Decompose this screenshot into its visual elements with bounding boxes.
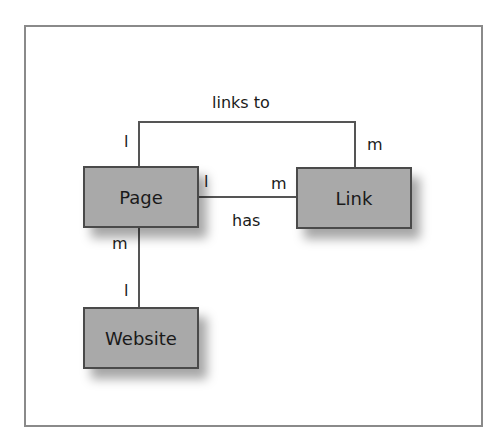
cardinality-page-website-website: l	[124, 283, 128, 299]
relationship-has-label: has	[232, 213, 260, 229]
cardinality-has-link: m	[271, 176, 287, 192]
cardinality-links-to-link: m	[367, 137, 383, 153]
entity-page-label: Page	[119, 187, 163, 208]
cardinality-links-to-page: l	[124, 134, 128, 150]
entity-website-label: Website	[105, 328, 177, 349]
cardinality-has-page: l	[204, 174, 208, 190]
relationship-links-to-label: links to	[212, 95, 270, 111]
entity-link: Link	[296, 167, 412, 229]
entity-website: Website	[83, 307, 199, 369]
cardinality-page-website-page: m	[112, 236, 128, 252]
entity-link-label: Link	[336, 188, 373, 209]
entity-page: Page	[83, 166, 199, 228]
